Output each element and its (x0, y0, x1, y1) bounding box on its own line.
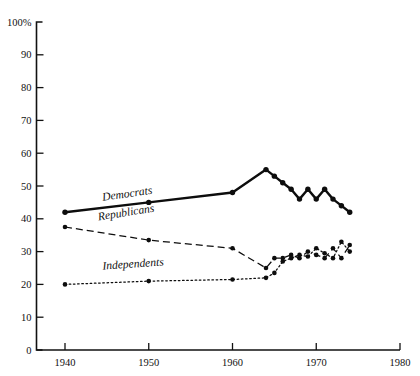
data-point-republicans (264, 266, 269, 271)
data-point-democrats (347, 210, 352, 215)
data-point-republicans (339, 256, 344, 261)
data-point-republicans (314, 253, 319, 258)
x-tick-label: 1970 (306, 357, 327, 368)
data-point-democrats (297, 196, 302, 201)
series-label-independents: Independents (101, 255, 165, 272)
data-point-republicans (146, 238, 151, 243)
data-point-democrats (62, 210, 67, 215)
data-point-democrats (330, 196, 335, 201)
y-tick-label: 70 (21, 115, 32, 126)
y-tick-label: 60 (21, 148, 32, 159)
data-point-democrats (305, 187, 310, 192)
y-tick-label: 40 (21, 213, 32, 224)
data-point-independents (272, 271, 277, 276)
data-point-democrats (263, 167, 268, 172)
party-identification-chart: 0102030405060708090100% 1940195019601970… (0, 0, 420, 376)
chart-canvas: 0102030405060708090100% 1940195019601970… (0, 0, 420, 376)
x-axis-ticks: 19401950196019701980 (55, 343, 411, 368)
y-tick-label: 30 (21, 246, 32, 257)
data-point-democrats (322, 187, 327, 192)
y-tick-label: 80 (21, 82, 32, 93)
y-tick-label: 50 (21, 181, 32, 192)
data-point-independents (63, 282, 68, 287)
data-point-democrats (314, 196, 319, 201)
y-tick-label: 20 (21, 279, 32, 290)
data-point-democrats (339, 203, 344, 208)
axes (37, 22, 401, 350)
data-point-independents (280, 259, 285, 264)
data-point-republicans (272, 256, 277, 261)
x-tick-label: 1980 (390, 357, 411, 368)
x-tick-label: 1940 (55, 357, 76, 368)
x-tick-label: 1950 (138, 357, 159, 368)
series-inline-labels: DemocratsRepublicansIndependents (96, 184, 165, 273)
data-point-independents (331, 256, 336, 261)
series-label-democrats: Democrats (100, 184, 153, 203)
data-point-independents (297, 253, 302, 258)
y-tick-label: 100% (7, 17, 32, 28)
data-point-independents (289, 256, 294, 261)
y-tick-label: 10 (21, 312, 32, 323)
data-point-independents (339, 239, 344, 244)
data-point-republicans (331, 246, 336, 251)
data-point-democrats (230, 190, 235, 195)
data-point-independents (347, 249, 352, 254)
y-tick-label: 0 (26, 345, 31, 356)
data-point-republicans (322, 256, 327, 261)
data-point-republicans (306, 249, 311, 254)
data-point-republicans (63, 225, 68, 230)
y-axis-ticks: 0102030405060708090100% (7, 17, 44, 356)
data-point-democrats (272, 173, 277, 178)
data-point-independents (230, 277, 235, 282)
y-tick-label: 90 (21, 49, 32, 60)
data-point-independents (146, 279, 151, 284)
x-tick-label: 1960 (222, 357, 243, 368)
data-point-democrats (288, 187, 293, 192)
data-point-independents (314, 246, 319, 251)
data-point-independents (306, 254, 311, 259)
data-point-republicans (347, 243, 352, 248)
data-point-democrats (280, 180, 285, 185)
data-point-independents (264, 276, 269, 281)
data-point-republicans (230, 246, 235, 251)
data-point-independents (322, 251, 327, 256)
